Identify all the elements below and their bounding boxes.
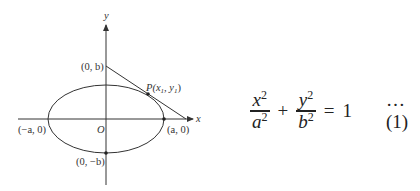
equation-reference: …(1) bbox=[386, 89, 420, 133]
ellipse-equation: x2 a2 + y2 b2 = 1 …(1) bbox=[248, 86, 420, 136]
ellipse-diagram: y x (0, b) P(x1, y1) (−a, 0) O (a, 0) (0… bbox=[0, 0, 230, 191]
point-a-0 bbox=[162, 117, 166, 121]
label-0-b: (0, b) bbox=[81, 61, 104, 73]
fraction-y-over-b: y2 b2 bbox=[296, 90, 316, 131]
term2-num-exponent: 2 bbox=[307, 88, 313, 102]
plus-sign: + bbox=[278, 100, 289, 122]
term2-numerator: y bbox=[299, 89, 307, 110]
equation-rhs: 1 bbox=[342, 100, 352, 122]
label-0-minus-b: (0, −b) bbox=[76, 156, 105, 168]
origin-label: O bbox=[97, 124, 105, 135]
term1-den-exponent: 2 bbox=[262, 110, 268, 124]
equals-sign: = bbox=[324, 100, 335, 122]
label-point-p: P(x1, y1) bbox=[145, 82, 182, 95]
term1-num-exponent: 2 bbox=[261, 88, 267, 102]
y-axis-label: y bbox=[103, 10, 109, 21]
term1-denominator: a bbox=[252, 111, 262, 132]
term2-denominator: b bbox=[298, 111, 308, 132]
term1-numerator: x bbox=[253, 89, 261, 110]
label-minus-a-0: (−a, 0) bbox=[18, 124, 47, 136]
term2-den-exponent: 2 bbox=[308, 110, 314, 124]
fraction-x-over-a: x2 a2 bbox=[250, 90, 270, 131]
label-a-0: (a, 0) bbox=[167, 124, 190, 136]
x-axis-label: x bbox=[195, 113, 201, 124]
point-0-minus-b bbox=[104, 151, 108, 155]
